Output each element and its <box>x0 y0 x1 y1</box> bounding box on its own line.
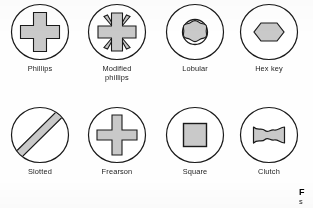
drive-label-clutch: Clutch <box>231 167 307 176</box>
drive-label-hex-key: Hex key <box>231 64 307 73</box>
drive-cell-phillips: Phillips <box>2 2 78 73</box>
drive-cell-lobular: Lobular <box>157 2 233 73</box>
slotted-recess-icon <box>9 105 71 165</box>
clutch-recess-icon <box>238 105 300 165</box>
screw-drive-grid: Phillips Modified phillips <box>0 0 313 208</box>
figure-caption-line-1: F <box>299 187 313 197</box>
drive-cell-modified-phillips: Modified phillips <box>79 2 155 82</box>
figure-caption-line-2: s <box>299 197 313 206</box>
hex-key-recess-icon <box>238 2 300 62</box>
drive-label-slotted: Slotted <box>2 167 78 176</box>
drive-cell-square: Square <box>157 105 233 176</box>
square-recess-icon <box>164 105 226 165</box>
drive-label-lobular: Lobular <box>157 64 233 73</box>
figure-caption: F s <box>299 187 313 206</box>
frearson-recess-icon <box>86 105 148 165</box>
drive-cell-frearson: Frearson <box>79 105 155 176</box>
drive-label-frearson: Frearson <box>79 167 155 176</box>
screw-drive-figure: Phillips Modified phillips <box>0 0 313 208</box>
modified-phillips-recess-icon <box>86 2 148 62</box>
lobular-recess-icon <box>164 2 226 62</box>
drive-label-modified-phillips: Modified phillips <box>79 64 155 82</box>
drive-cell-hex-key: Hex key <box>231 2 307 73</box>
drive-label-phillips: Phillips <box>2 64 78 73</box>
drive-cell-clutch: Clutch <box>231 105 307 176</box>
phillips-recess-icon <box>9 2 71 62</box>
drive-cell-slotted: Slotted <box>2 105 78 176</box>
drive-label-square: Square <box>157 167 233 176</box>
